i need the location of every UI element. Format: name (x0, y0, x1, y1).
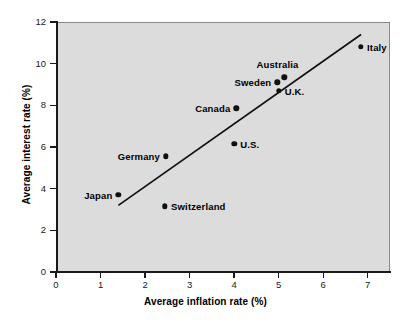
data-label-germany: Germany (118, 151, 160, 162)
y-axis-label: Average interest rate (%) (21, 35, 32, 255)
data-label-japan: Japan (84, 189, 112, 200)
data-label-u-s: U.S. (240, 138, 259, 149)
data-label-canada: Canada (195, 103, 230, 114)
data-label-sweden: Sweden (235, 77, 272, 88)
data-label-u-k: U.K. (285, 85, 305, 96)
data-label-switzerland: Switzerland (171, 201, 225, 212)
scatter-chart-figure: 024681012 01234567 JapanSwitzerlandGerma… (0, 0, 411, 325)
trend-line (118, 35, 361, 206)
data-label-italy: Italy (367, 42, 387, 53)
trendline-svg (0, 0, 411, 325)
data-label-australia: Australia (256, 59, 298, 70)
x-axis-label: Average inflation rate (%) (0, 296, 411, 307)
